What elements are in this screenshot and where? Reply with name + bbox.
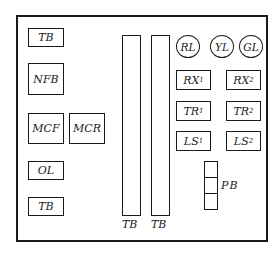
ls2-label: LS xyxy=(234,135,249,148)
terminal-block-bottom-label: TB xyxy=(38,200,53,213)
tr1-subscript: 1 xyxy=(199,107,203,115)
rx1-subscript: 1 xyxy=(199,76,203,84)
magnetic-contactor-forward: MCF xyxy=(28,113,64,144)
nfb-label: NFB xyxy=(33,73,58,86)
relay-rx2: RX2 xyxy=(226,70,261,90)
terminal-strip-2 xyxy=(151,35,170,216)
timer-tr1: TR1 xyxy=(176,101,211,121)
push-button-station xyxy=(204,161,218,210)
green-lamp: GL xyxy=(239,35,263,58)
terminal-strip-1-label: TB xyxy=(122,218,137,231)
terminal-block-top: TB xyxy=(28,28,64,47)
timer-tr2: TR2 xyxy=(226,101,261,121)
push-button-3 xyxy=(205,194,217,209)
rx2-label: RX xyxy=(233,74,249,87)
magnetic-contactor-reverse: MCR xyxy=(69,113,105,144)
ol-label: OL xyxy=(38,164,54,177)
red-lamp-label: RL xyxy=(181,41,196,53)
terminal-block-top-label: TB xyxy=(38,31,53,44)
limit-switch-ls2: LS2 xyxy=(226,131,261,151)
terminal-strip-2-label: TB xyxy=(151,218,166,231)
push-button-2 xyxy=(205,178,217,194)
rx1-label: RX xyxy=(183,74,199,87)
red-lamp: RL xyxy=(176,35,200,58)
terminal-block-bottom: TB xyxy=(28,197,64,216)
limit-switch-ls1: LS1 xyxy=(176,131,211,151)
push-button-label: PB xyxy=(221,179,239,192)
ls2-subscript: 2 xyxy=(249,137,253,145)
yellow-lamp: YL xyxy=(210,35,234,58)
rx2-subscript: 2 xyxy=(249,76,253,84)
terminal-strip-1 xyxy=(122,35,141,216)
mcf-label: MCF xyxy=(32,122,59,135)
ls1-label: LS xyxy=(184,135,199,148)
no-fuse-breaker: NFB xyxy=(28,63,64,95)
relay-rx1: RX1 xyxy=(176,70,211,90)
overload-relay: OL xyxy=(28,161,64,180)
push-button-1 xyxy=(205,162,217,178)
ls1-subscript: 1 xyxy=(199,137,203,145)
tr2-subscript: 2 xyxy=(249,107,253,115)
green-lamp-label: GL xyxy=(243,41,258,53)
mcr-label: MCR xyxy=(73,122,101,135)
yellow-lamp-label: YL xyxy=(215,41,229,53)
tr1-label: TR xyxy=(183,105,199,118)
tr2-label: TR xyxy=(233,105,249,118)
